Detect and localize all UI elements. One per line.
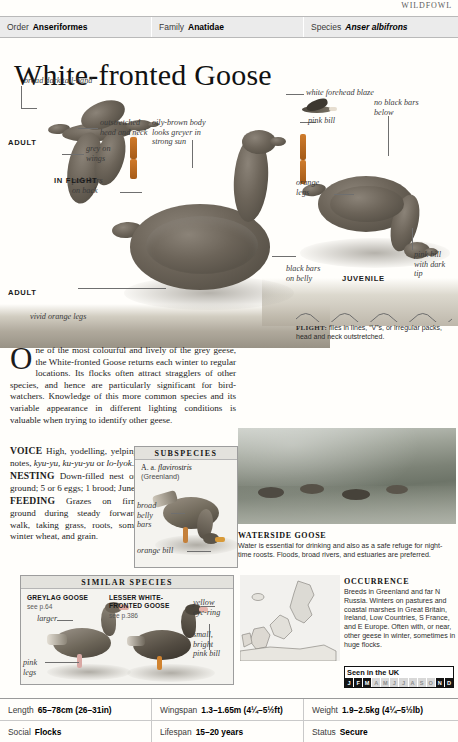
- caption-adult: ADULT: [8, 288, 37, 297]
- juvenile-leg-left: [300, 134, 306, 160]
- subspecies-bill: [215, 537, 225, 542]
- annotation-oily-brown-body: oily-brown body looks greyer in strong s…: [152, 118, 206, 147]
- nesting-label: NESTING: [10, 470, 55, 481]
- subspecies-goose-illustration: [153, 483, 239, 555]
- adult-standing-illustration: [130, 130, 300, 302]
- uk-month-0: J: [345, 678, 354, 687]
- subspecies-name: A. a. flavirostris: [141, 463, 192, 472]
- uk-month-3: A: [372, 678, 381, 687]
- leader-line-pink-bill-tip: [412, 228, 413, 250]
- annotation-orange-legs: orange legs: [296, 178, 319, 197]
- taxonomy-species-key: Species: [311, 22, 341, 32]
- uk-month-5: J: [390, 678, 399, 687]
- stat-length-key: Length: [8, 705, 34, 715]
- uk-month-8: S: [418, 678, 427, 687]
- stat-status-key: Status: [312, 727, 336, 737]
- annotation-pink-bill: pink bill: [308, 116, 335, 126]
- leader-line-tail-band: [21, 86, 22, 108]
- annotation-outstretched-head-neck: outstretched head and neck: [100, 118, 147, 137]
- annotation-broad-dark-tail-band: broad dark tail-band: [24, 76, 92, 86]
- drop-cap: O: [10, 345, 35, 371]
- stat-wingspan: Wingspan 1.3–1.65m (4¼–5½ft): [152, 699, 304, 720]
- adult-leg-left: [130, 137, 137, 159]
- leader-line-black-bars: [272, 256, 296, 257]
- caption-juvenile: JUVENILE: [342, 274, 385, 283]
- nesting-section: NESTING Down-filled nest on ground; 5 or…: [10, 470, 138, 494]
- annotation-larger: larger: [37, 614, 57, 624]
- uk-month-4: M: [381, 678, 390, 687]
- small-goose-bill: [329, 107, 337, 111]
- taxonomy-order-key: Order: [7, 22, 29, 32]
- similar-species-panel: SIMILAR SPECIES GREYLAG GOOSE see p.64 l…: [20, 575, 234, 685]
- uk-month-6: J: [399, 678, 408, 687]
- waterside-text: Water is essential for drinking and also…: [238, 542, 454, 560]
- greylag-tail: [47, 634, 67, 645]
- adult-bill: [270, 137, 286, 146]
- stat-lifespan-key: Lifespan: [160, 727, 192, 737]
- subspecies-region: (Greenland): [141, 472, 179, 481]
- species-detail-sections: VOICE High, yodelling, yelping notes, ky…: [10, 444, 138, 543]
- annotation-no-black-bars-below: no black bars below: [374, 98, 419, 117]
- occurrence-title: OCCURRENCE: [344, 577, 409, 586]
- taxonomy-order: Order Anseriformes: [0, 17, 152, 37]
- flight-caption: FLIGHT: flies in lines, “V”s, or irregul…: [296, 324, 456, 341]
- description-paragraph: ne of the most colourful and lively of t…: [10, 345, 236, 425]
- leader-line-larger: [57, 620, 73, 621]
- caption-in-flight: IN FLIGHT: [54, 176, 97, 185]
- waterside-habitat-photo: [238, 428, 456, 524]
- photo-goose-3: [342, 489, 370, 500]
- stat-weight-value: 1.9–2.5kg (4¼–5½lb): [342, 705, 423, 715]
- stat-social: Social Flocks: [0, 721, 152, 742]
- flight-path-wave-icon: [296, 308, 452, 322]
- stat-length-value: 65–78cm (26–31in): [38, 705, 112, 715]
- voice-section: VOICE High, yodelling, yelping notes, ky…: [10, 445, 138, 469]
- annotation-broad-belly-bars: broad belly bars: [137, 501, 156, 530]
- uk-month-7: A: [409, 678, 418, 687]
- stat-status: Status Secure: [304, 721, 458, 742]
- occurrence-text: Breeds in Greenland and far N Russia. Wi…: [344, 588, 456, 650]
- voice-note-2: lo-lyok: [106, 458, 131, 468]
- stats-bar: Length 65–78cm (26–31in) Wingspan 1.3–1.…: [0, 698, 458, 740]
- leader-line-belly-bars: [171, 513, 185, 514]
- adult-leg-right: [130, 159, 137, 179]
- taxonomy-family: Family Anatidae: [152, 17, 304, 37]
- illustration-plate: broad dark tail-band outstretched head a…: [0, 72, 458, 334]
- stat-social-key: Social: [8, 727, 31, 737]
- similar-species-0-name: GREYLAG GOOSE: [27, 594, 88, 602]
- annotation-pink-bill-with-dark-tip: pink bill with dark tip: [414, 250, 445, 279]
- annotation-orange-bill: orange bill: [137, 546, 173, 556]
- similar-species-heading: SIMILAR SPECIES: [21, 576, 233, 589]
- subspecies-panel: SUBSPECIES A. a. flavirostris (Greenland…: [134, 446, 238, 568]
- leader-line-no-black-bars: [388, 116, 389, 156]
- annotation-grey-on-wings: grey on wings: [86, 144, 110, 163]
- leader-line-forehead-blaze: [286, 94, 304, 95]
- taxonomy-bar: Order Anseriformes Family Anatidae Speci…: [0, 16, 458, 38]
- taxonomy-species-value: Anser albifrons: [345, 22, 407, 32]
- leader-line-orange-bill: [187, 551, 211, 552]
- stat-length: Length 65–78cm (26–31in): [0, 699, 152, 720]
- stats-row-1: Length 65–78cm (26–31in) Wingspan 1.3–1.…: [0, 699, 458, 721]
- stats-row-2: Social Flocks Lifespan 15–20 years Statu…: [0, 721, 458, 742]
- subspecies-heading: SUBSPECIES: [135, 447, 237, 460]
- stat-lifespan-value: 15–20 years: [196, 727, 244, 737]
- leader-line-pale-bars: [120, 192, 142, 193]
- feeding-label: FEEDING: [10, 495, 55, 506]
- stat-social-value: Flocks: [35, 727, 62, 737]
- flight-caption-label: FLIGHT:: [296, 324, 327, 332]
- voice-label: VOICE: [10, 445, 42, 456]
- annotation-black-bars-on-belly: black bars on belly: [286, 264, 320, 283]
- adult-wing: [146, 216, 258, 274]
- seen-in-uk-month-strip: JFMAMJJASOND: [345, 678, 453, 687]
- voice-note-1: kyu-yu, ku-yu-yu: [34, 458, 95, 468]
- photo-goose-2: [300, 484, 324, 494]
- taxonomy-order-value: Anseriformes: [33, 22, 88, 32]
- subspecies-leg: [183, 527, 188, 543]
- taxonomy-species: Species Anser albifrons: [304, 17, 458, 37]
- lesser-ground-shadow: [127, 664, 215, 682]
- photo-goose-1: [258, 487, 284, 498]
- photo-goose-4: [386, 485, 408, 494]
- annotation-white-forehead-blaze: white forehead blaze: [306, 88, 374, 98]
- uk-month-10: N: [436, 678, 445, 687]
- subspecies-name-italic: flavirostris: [158, 463, 192, 472]
